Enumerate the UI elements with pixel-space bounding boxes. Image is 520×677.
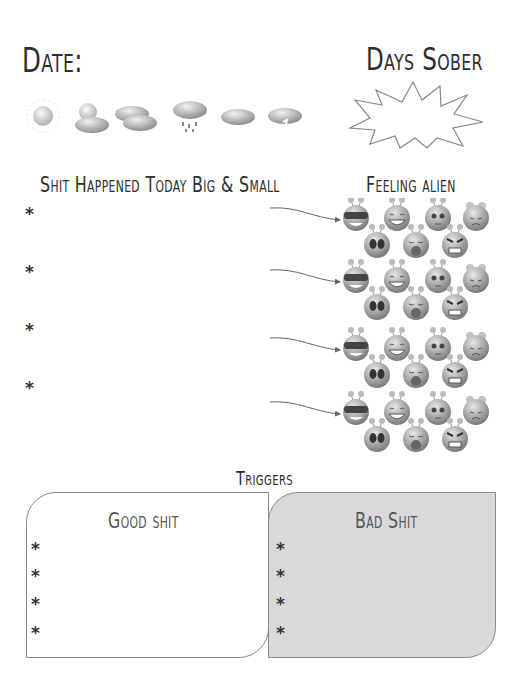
starburst-days-sober-field[interactable] [345, 78, 490, 150]
bad-triggers-title: Bad Shit [355, 508, 417, 533]
bad-bullet-3[interactable]: * [276, 596, 285, 613]
good-triggers-title: Good shit [108, 508, 179, 533]
arrow-icon [270, 402, 340, 414]
alien-face-grid[interactable] [335, 198, 495, 460]
good-bullet-4[interactable]: * [31, 625, 40, 642]
bad-bullet-2[interactable]: * [276, 568, 285, 585]
event-bullet-4[interactable]: * [25, 380, 34, 397]
bad-bullet-4[interactable]: * [276, 625, 285, 642]
event-bullet-3[interactable]: * [25, 322, 34, 339]
arrow-icon [270, 208, 340, 220]
partly-cloudy-icon [75, 103, 109, 133]
event-bullet-1[interactable]: * [25, 206, 34, 223]
bad-bullet-1[interactable]: * [276, 541, 285, 558]
sun-icon [27, 100, 59, 132]
snow-icon [221, 109, 255, 125]
rain-icon [173, 101, 207, 132]
arrow-icon [270, 270, 340, 282]
good-bullet-3[interactable]: * [31, 596, 40, 613]
feelings-title: Feeling alien [366, 172, 456, 197]
storm-icon [268, 108, 302, 128]
date-label: Date: [22, 40, 83, 80]
days-sober-label: Days Sober [366, 40, 483, 78]
event-bullet-2[interactable]: * [25, 264, 34, 281]
weather-icons [20, 92, 310, 142]
cloudy-icon [115, 106, 157, 131]
triggers-title: Triggers [236, 466, 293, 490]
events-title: Shit Happened Today Big & Small [40, 172, 280, 197]
good-bullet-2[interactable]: * [31, 568, 40, 585]
arrow-icon [270, 338, 340, 350]
good-bullet-1[interactable]: * [31, 541, 40, 558]
